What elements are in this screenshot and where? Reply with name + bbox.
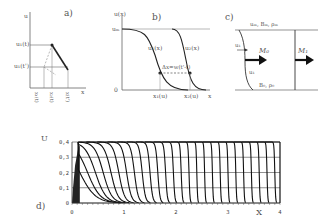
panel-a-x-axis-label: x bbox=[81, 88, 84, 95]
panel-a-x-label-1: x₁(t) bbox=[34, 92, 40, 103]
panel-a-y-axis-label: u bbox=[24, 12, 28, 19]
panel-d: U d) 00,10,20,30,401234X bbox=[0, 125, 326, 222]
panel-b: b) u(x) uₘ 0 u₁(x) u₂(x) Δx=w(t'-t) x₁(u… bbox=[100, 0, 215, 105]
panel-c-flux-left: M₀ bbox=[259, 47, 269, 55]
panel-a-y-label-2: u₁(t') bbox=[14, 62, 29, 69]
panel-b-label: b) bbox=[152, 12, 161, 22]
y-tick-label: 0,2 bbox=[59, 170, 69, 176]
panel-a-label: a) bbox=[64, 8, 73, 18]
panel-c-flux-right: M₁ bbox=[298, 47, 308, 55]
panel-a-x-label-2: x₂(t) bbox=[49, 92, 55, 103]
panel-b-y-max-label: uₘ bbox=[112, 25, 120, 32]
y-tick-label: 0,4 bbox=[59, 139, 70, 145]
panel-c-label: c) bbox=[225, 12, 234, 22]
panel-b-origin-label: 0 bbox=[114, 86, 118, 93]
x-tick-label: 2 bbox=[174, 209, 177, 215]
panel-b-y-axis-label: u(x) bbox=[114, 10, 126, 17]
panel-b-curve-label-2: u₂(x) bbox=[185, 44, 199, 51]
panel-c-arrow-label-lower: u₁ bbox=[249, 69, 255, 75]
panel-c-top-label: uₘ, Bₘ, ρₘ bbox=[250, 21, 278, 27]
x-tick-label: 0 bbox=[70, 209, 73, 215]
panel-b-x-axis-label: x bbox=[208, 92, 211, 99]
panel-a-x-label-3: x(t') bbox=[65, 92, 71, 102]
panel-a-diagram bbox=[0, 0, 100, 105]
x-tick-label: 3 bbox=[226, 209, 229, 215]
panel-a-y-label-1: u₁(t) bbox=[16, 40, 29, 47]
panel-c: c) uₘ, Bₘ, ρₘ B₀, ρ₀ u₁ u₁ M₀ M₁ bbox=[215, 0, 326, 105]
panel-b-x-label-2: x₂(u) bbox=[184, 92, 198, 99]
y-tick-label: 0 bbox=[66, 200, 69, 206]
y-tick-label: 0,1 bbox=[59, 185, 69, 191]
x-axis-label: X bbox=[256, 208, 262, 217]
panel-b-x-label-1: x₁(u) bbox=[153, 92, 167, 99]
y-tick-label: 0,3 bbox=[59, 154, 69, 160]
panel-b-annotation: Δx=w(t'-t) bbox=[162, 64, 190, 70]
panel-c-bottom-label: B₀, ρ₀ bbox=[259, 82, 274, 88]
x-tick-label: 1 bbox=[122, 209, 125, 215]
x-tick-label: 4 bbox=[278, 209, 282, 215]
panel-b-curve-label-1: u₁(x) bbox=[148, 44, 162, 51]
panel-c-arrow-label-upper: u₁ bbox=[235, 42, 241, 48]
panel-a: a) u u₁(t) u₁(t') x x₁(t) x₂(t) x(t') bbox=[0, 0, 100, 105]
panel-d-chart: 00,10,20,30,401234X bbox=[0, 125, 326, 222]
